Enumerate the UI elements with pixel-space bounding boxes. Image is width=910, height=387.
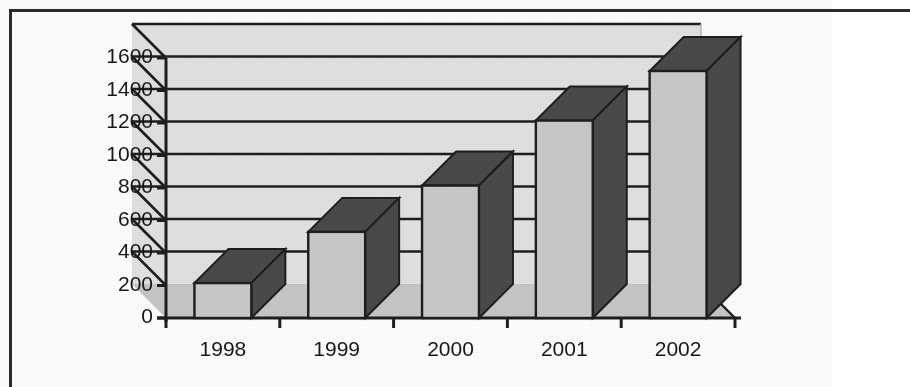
bar-side-face <box>707 37 741 318</box>
y-tick-label: 1400 <box>53 77 153 101</box>
y-tick-label: 1200 <box>53 109 153 133</box>
x-tick-label: 2000 <box>396 337 506 361</box>
y-tick-label: 400 <box>53 239 153 263</box>
bar-side-face <box>593 87 627 318</box>
bar-front-face <box>194 283 251 318</box>
bar-front-face <box>650 71 707 318</box>
y-tick-label: 600 <box>53 207 153 231</box>
y-tick-label: 200 <box>53 272 153 296</box>
y-tick-label: 0 <box>53 304 153 328</box>
bar-front-face <box>536 121 593 318</box>
bar-front-face <box>308 232 365 318</box>
bar-2002 <box>650 37 741 318</box>
x-tick-label: 1999 <box>282 337 392 361</box>
x-tick-label: 1998 <box>168 337 278 361</box>
bar-2000 <box>422 152 513 318</box>
bar-front-face <box>422 186 479 318</box>
y-tick-label: 1000 <box>53 142 153 166</box>
y-tick-label: 1600 <box>53 44 153 68</box>
bar-2001 <box>536 87 627 318</box>
y-tick-label: 800 <box>53 174 153 198</box>
x-tick-label: 2001 <box>509 337 619 361</box>
x-tick-label: 2002 <box>623 337 733 361</box>
